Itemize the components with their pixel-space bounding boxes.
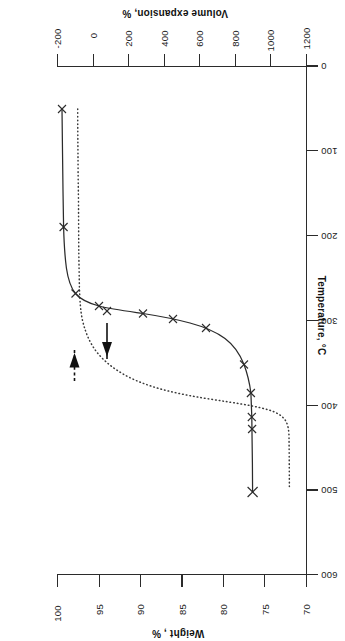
volume-expansion-curve (78, 109, 290, 489)
plot-area (0, 0, 345, 641)
rotated-plot-stage: 100 95 90 85 80 75 70 Weight , % -200 0 … (0, 0, 345, 641)
weight-arrow-annotation (102, 323, 112, 359)
figure-canvas: 100 95 90 85 80 75 70 Weight , % -200 0 … (0, 0, 345, 641)
weight-curve (62, 109, 253, 492)
expansion-arrow-annotation (70, 350, 80, 381)
weight-data-markers (58, 105, 258, 497)
